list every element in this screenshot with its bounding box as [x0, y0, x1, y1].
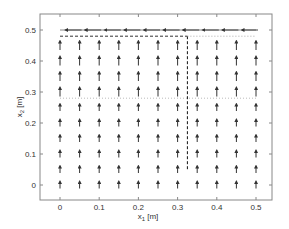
y-tick-label: 0.2: [25, 119, 37, 128]
x-tick-label: 0: [58, 203, 63, 212]
y-tick-labels: 00.10.20.30.40.5: [25, 26, 37, 190]
x-tick-label: 0.2: [133, 203, 145, 212]
plot-area: [40, 14, 272, 200]
x-tick-label: 0.1: [94, 203, 106, 212]
x-tick-labels: 00.10.20.30.40.5: [58, 203, 262, 212]
x-axis-label: x1 [m]: [138, 212, 159, 222]
y-tick-label: 0.1: [25, 150, 37, 159]
y-axis-label: x2 [m]: [15, 97, 25, 118]
y-tick-label: 0.3: [25, 88, 37, 97]
x-tick-label: 0.5: [250, 203, 262, 212]
x-tick-label: 0.4: [211, 203, 223, 212]
y-tick-label: 0.4: [25, 57, 37, 66]
y-tick-label: 0.5: [25, 26, 37, 35]
quiver-plot: 00.10.20.30.40.5 00.10.20.30.40.5 x1 [m]…: [0, 0, 289, 229]
y-tick-label: 0: [32, 181, 37, 190]
x-tick-label: 0.3: [172, 203, 184, 212]
